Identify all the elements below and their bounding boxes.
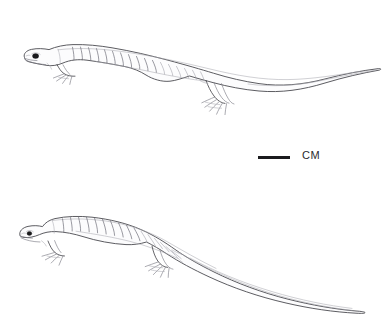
specimen-lower-drawing [0,0,388,327]
lower-gular-fold [42,241,47,246]
scale-bar-label: CM [302,149,320,161]
lower-tail-midline [178,252,352,310]
lower-body-outline [20,216,365,313]
lower-salamander-group [20,216,365,313]
lower-hind-toe-4 [160,267,165,277]
figure-plate: CM [0,0,388,327]
lower-mouth-line [21,238,40,242]
lower-hind-toe-5 [168,268,169,278]
lower-tail-midline-2 [190,258,352,308]
lower-eye [27,231,32,235]
lower-hind-toe-1 [145,262,158,267]
scale-bar [258,156,290,159]
